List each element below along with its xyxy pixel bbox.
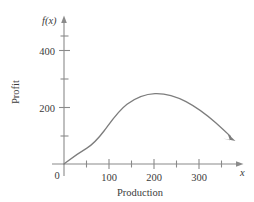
y-axis-name-label: f(x) [42,15,57,27]
x-axis-name-label: x [239,167,245,178]
x-axis-group [52,159,244,169]
x-tick-label-200: 200 [146,172,162,183]
x-tick-label-300: 300 [191,172,207,183]
y-tick-label-200: 200 [39,103,55,114]
profit-production-chart: f(x) x 400 200 100 200 300 0 Production … [0,0,254,202]
y-tick-label-400: 400 [39,46,55,57]
x-axis-title: Production [117,187,164,198]
profit-curve [64,94,231,164]
y-axis-arrowhead [61,16,67,24]
y-axis-title: Profit [10,80,21,104]
x-axis-arrowhead [236,161,244,167]
x-tick-label-100: 100 [101,172,117,183]
chart-canvas: f(x) x 400 200 100 200 300 0 Production … [0,0,254,202]
origin-label: 0 [54,170,59,181]
profit-curve-group [64,94,236,164]
y-axis-group [59,16,70,177]
